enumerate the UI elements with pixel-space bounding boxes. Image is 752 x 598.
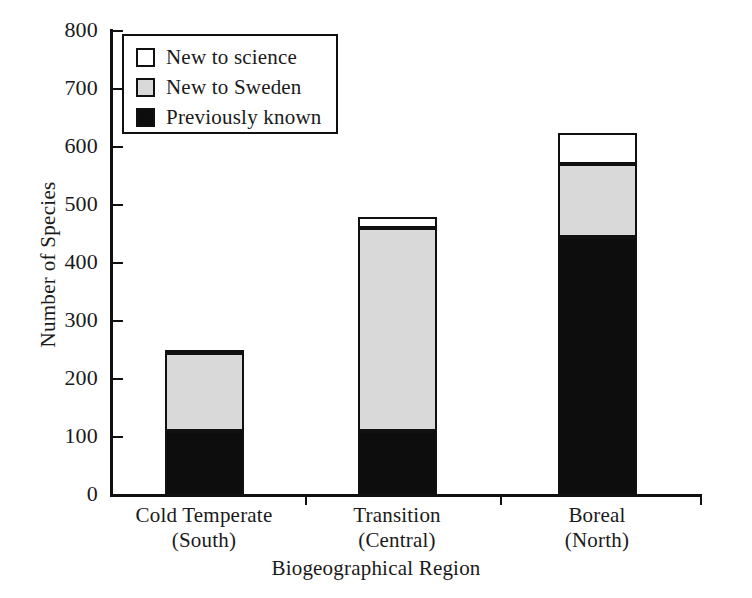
y-axis-tick-label: 0 [40,483,98,505]
bar-2 [358,217,437,495]
bar-segment-new-to-sweden [165,353,244,431]
black-square-icon [136,108,155,127]
category-label-secondary: (North) [472,528,722,553]
white-square-icon [136,48,155,67]
y-axis-tick [112,146,123,148]
y-axis-tick-label: 200 [40,367,98,389]
y-axis-tick-label: 600 [40,135,98,157]
y-axis-tick [112,378,123,380]
bar-segment-new-to-science [165,350,244,354]
legend-item-new-to-science: New to science [136,42,336,72]
bar-segment-previously-known [358,431,437,495]
x-axis-category-label: Boreal(North) [472,503,722,553]
legend-item-new-to-sweden: New to Sweden [136,72,336,102]
legend-item-label: Previously known [166,107,321,128]
y-axis-tick-label: 700 [40,77,98,99]
y-axis-tick-label: 400 [40,251,98,273]
bar-segment-previously-known [558,237,637,495]
bar-segment-new-to-science [358,217,437,229]
y-axis-tick-label: 500 [40,193,98,215]
y-axis-tick-label: 100 [40,425,98,447]
bar-3 [558,133,637,496]
bar-segment-new-to-sweden [358,228,437,431]
bar-1 [165,350,244,495]
y-axis-tick [112,436,123,438]
legend-item-previously-known: Previously known [136,102,336,132]
bar-segment-new-to-sweden [558,164,637,237]
bar-segment-new-to-science [558,133,637,165]
x-axis-title: Biogeographical Region [0,556,752,581]
stacked-bar-chart: Number of Species 0100200300400500600700… [0,0,752,598]
gray-square-icon [136,78,155,97]
y-axis-tick [112,204,123,206]
y-axis-tick [112,262,123,264]
y-axis-tick-label: 800 [40,19,98,41]
y-axis-tick [112,494,123,496]
legend-item-label: New to Sweden [166,77,302,98]
category-label-primary: Boreal [472,503,722,528]
chart-legend: New to science New to Sweden Previously … [122,34,338,134]
legend-item-label: New to science [166,47,297,68]
bar-segment-previously-known [165,431,244,495]
y-axis-tick [112,30,123,32]
y-axis-tick-label: 300 [40,309,98,331]
y-axis-tick [112,320,123,322]
